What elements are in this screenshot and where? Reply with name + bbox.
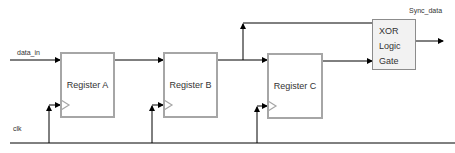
register-c-label: Register C xyxy=(274,81,317,91)
sync-data-label: Sync_data xyxy=(409,7,442,14)
clk-label: clk xyxy=(13,125,22,132)
xor-gate-line-3: Gate xyxy=(379,54,415,69)
register-a: Register A xyxy=(60,52,115,118)
register-b: Register B xyxy=(163,52,218,118)
register-a-label: Register A xyxy=(67,80,109,90)
register-b-label: Register B xyxy=(169,80,211,90)
register-c: Register C xyxy=(267,53,323,119)
xor-gate-line-1: XOR xyxy=(379,24,415,39)
xor-gate-line-2: Logic xyxy=(379,39,415,54)
xor-logic-gate: XOR Logic Gate xyxy=(372,19,416,70)
data-in-label: data_in xyxy=(17,49,40,56)
